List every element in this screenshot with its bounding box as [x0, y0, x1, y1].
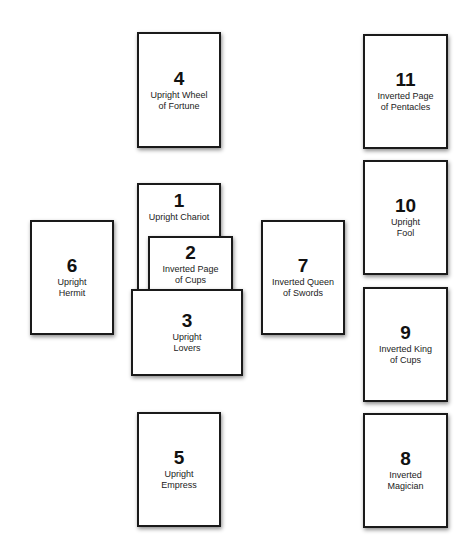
card-label: Upright Chariot: [146, 212, 213, 223]
card-position-9[interactable]: 9 Inverted King of Cups: [363, 287, 448, 402]
card-number: 2: [185, 243, 196, 262]
card-label: Upright Hermit: [54, 277, 89, 299]
card-number: 9: [400, 323, 411, 342]
card-number: 10: [395, 196, 416, 215]
card-position-4[interactable]: 4 Upright Wheel of Fortune: [137, 32, 221, 148]
card-number: 1: [174, 191, 185, 210]
card-label: Upright Fool: [388, 217, 423, 239]
card-position-6[interactable]: 6 Upright Hermit: [30, 220, 114, 335]
card-label: Upright Wheel of Fortune: [147, 90, 210, 112]
card-label: Upright Empress: [158, 469, 200, 491]
card-number: 5: [174, 448, 185, 467]
card-label: Inverted Page of Pentacles: [374, 91, 436, 113]
card-position-3[interactable]: 3 Upright Lovers: [131, 289, 243, 376]
card-number: 6: [67, 256, 78, 275]
card-number: 11: [395, 70, 415, 89]
card-number: 8: [400, 449, 411, 468]
tarot-spread: 4 Upright Wheel of Fortune 11 Inverted P…: [0, 0, 470, 557]
card-number: 4: [174, 69, 185, 88]
card-position-10[interactable]: 10 Upright Fool: [363, 160, 448, 275]
card-label: Upright Lovers: [169, 332, 204, 354]
card-position-8[interactable]: 8 Inverted Magician: [363, 413, 448, 528]
card-label: Inverted Page of Cups: [159, 264, 221, 286]
card-number: 7: [298, 256, 309, 275]
card-label: Inverted Queen of Swords: [269, 277, 337, 299]
card-number: 3: [182, 311, 193, 330]
card-position-7[interactable]: 7 Inverted Queen of Swords: [261, 220, 345, 335]
card-position-5[interactable]: 5 Upright Empress: [137, 412, 221, 527]
card-label: Inverted Magician: [384, 470, 426, 492]
card-position-11[interactable]: 11 Inverted Page of Pentacles: [363, 34, 448, 149]
card-label: Inverted King of Cups: [376, 344, 435, 366]
